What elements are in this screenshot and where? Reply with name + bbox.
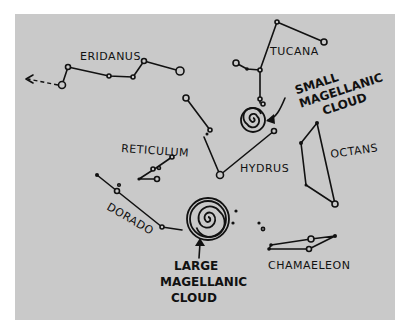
- star: [176, 67, 184, 75]
- star: [275, 20, 279, 24]
- star: [233, 60, 239, 66]
- constellation-chamaeleon: CHAMAELEON: [267, 234, 350, 272]
- star: [115, 189, 120, 194]
- star: [206, 133, 209, 136]
- star: [131, 75, 135, 79]
- label-small-magellanic-cloud: SMALL MAGELLANIC CLOUD: [293, 57, 389, 124]
- star: [272, 129, 277, 134]
- svg-text:CLOUD: CLOUD: [171, 291, 217, 305]
- star: [95, 173, 99, 177]
- constellation-diagram: ERIDANUS TUCANA SMALL MAGELLANIC CLOUD: [0, 0, 406, 332]
- star: [258, 68, 262, 72]
- star: [267, 247, 271, 251]
- star: [245, 67, 249, 71]
- arrow-pointer: [268, 98, 285, 120]
- star: [257, 221, 260, 224]
- star: [308, 236, 314, 242]
- star: [158, 167, 161, 170]
- label-tucana: TUCANA: [269, 45, 319, 58]
- star: [183, 95, 189, 101]
- star: [160, 225, 164, 229]
- constellation-reticulum: RETICULUM: [121, 142, 190, 181]
- label-dorado: DORADO: [105, 200, 157, 237]
- star: [332, 201, 338, 207]
- star: [299, 141, 303, 145]
- chamaeleon-lines: [269, 236, 335, 249]
- star: [307, 247, 312, 252]
- eridanus-lines: [62, 61, 180, 85]
- star: [305, 184, 308, 187]
- constellation-octans: OCTANS: [299, 121, 379, 207]
- star: [217, 172, 224, 179]
- star: [258, 97, 262, 101]
- label-reticulum: RETICULUM: [121, 142, 190, 160]
- label-hydrus: HYDRUS: [240, 162, 289, 175]
- star: [155, 177, 160, 182]
- star: [137, 177, 140, 180]
- star: [107, 74, 111, 78]
- star: [208, 128, 212, 132]
- arrow-head-icon: [266, 114, 275, 124]
- star: [321, 39, 327, 45]
- octans-lines: [301, 123, 335, 204]
- constellation-hydrus: HYDRUS: [183, 95, 289, 179]
- star: [151, 167, 155, 171]
- label-eridanus: ERIDANUS: [80, 50, 141, 63]
- star: [261, 227, 264, 230]
- star: [231, 221, 234, 224]
- label-chamaeleon: CHAMAELEON: [268, 259, 350, 272]
- star: [118, 184, 121, 187]
- star: [66, 65, 71, 70]
- star: [261, 102, 265, 106]
- small-magellanic-cloud: SMALL MAGELLANIC CLOUD: [241, 57, 389, 132]
- constellation-eridanus: ERIDANUS: [26, 50, 184, 89]
- svg-text:MAGELLANIC: MAGELLANIC: [160, 275, 247, 289]
- star: [59, 82, 66, 89]
- spiral-icon: [241, 108, 265, 132]
- label-octans: OCTANS: [330, 141, 379, 161]
- star: [269, 243, 273, 247]
- svg-text:LARGE: LARGE: [174, 259, 218, 273]
- star: [315, 121, 319, 125]
- hydrus-lines: [186, 98, 210, 130]
- label-large-magellanic-cloud: LARGE MAGELLANIC CLOUD: [160, 259, 247, 305]
- spiral-icon: [187, 198, 229, 240]
- constellation-dorado: DORADO: [95, 173, 182, 238]
- star: [234, 209, 237, 212]
- star: [333, 234, 337, 238]
- large-magellanic-cloud: LARGE MAGELLANIC CLOUD: [160, 198, 265, 305]
- star: [142, 59, 147, 64]
